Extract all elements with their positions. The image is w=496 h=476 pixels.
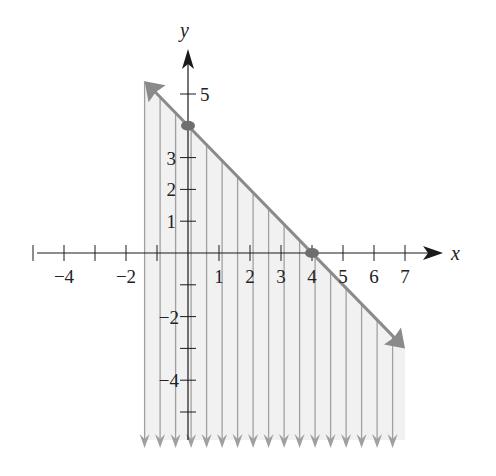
y-tick-label: 5 bbox=[200, 84, 210, 105]
x-tick-label: 7 bbox=[400, 266, 410, 287]
x-tick-label: −4 bbox=[54, 266, 75, 287]
shaded-region bbox=[140, 81, 405, 448]
x-tick-label: 4 bbox=[307, 266, 317, 287]
intercept-point bbox=[181, 121, 195, 131]
y-tick-label: −2 bbox=[159, 307, 179, 328]
x-tick-label: 5 bbox=[338, 266, 348, 287]
inequality-graph: −4−212345675321−2−4 x y bbox=[0, 0, 496, 476]
y-tick-label: 2 bbox=[167, 179, 177, 200]
y-tick-label: 3 bbox=[167, 148, 177, 169]
x-tick-label: 3 bbox=[276, 266, 286, 287]
y-tick-label: −4 bbox=[159, 370, 180, 391]
y-axis-label: y bbox=[178, 19, 189, 42]
x-tick-label: 1 bbox=[214, 266, 224, 287]
shade-fill bbox=[145, 81, 405, 440]
x-tick-label: −2 bbox=[116, 266, 136, 287]
x-tick-label: 6 bbox=[369, 266, 379, 287]
x-axis-label: x bbox=[450, 242, 460, 264]
y-tick-label: 1 bbox=[167, 211, 177, 232]
intercept-point bbox=[305, 248, 319, 258]
x-tick-label: 2 bbox=[245, 266, 255, 287]
